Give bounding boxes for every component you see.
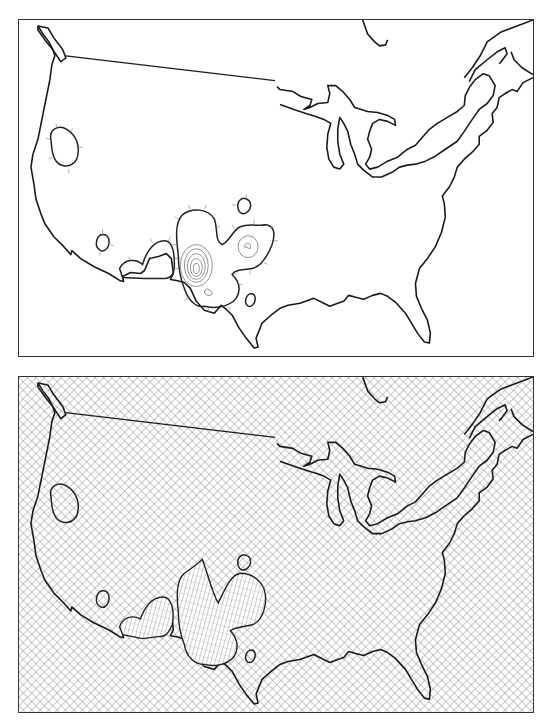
contour-nevada [46,123,83,173]
contour-map-panel [18,19,534,357]
hudson-bay-coast [363,20,388,46]
surface-map-panel [18,376,534,713]
panel-top-description: Contour map of the contiguous United Sta… [0,0,1,1]
contour-peak-main [172,205,278,312]
contour-socal-small [96,229,113,256]
us-contour-map [19,20,533,356]
us-coastline [31,26,533,348]
us-canada-border [66,56,275,81]
contour-colorado-small [232,194,250,214]
contour-texas-small [245,294,255,307]
canada-coastline [464,20,533,82]
crosshatch-surface [19,377,533,712]
panel-bottom-description: Same region rendered as a cross-hatched … [0,0,1,1]
us-surface-map [19,377,533,712]
